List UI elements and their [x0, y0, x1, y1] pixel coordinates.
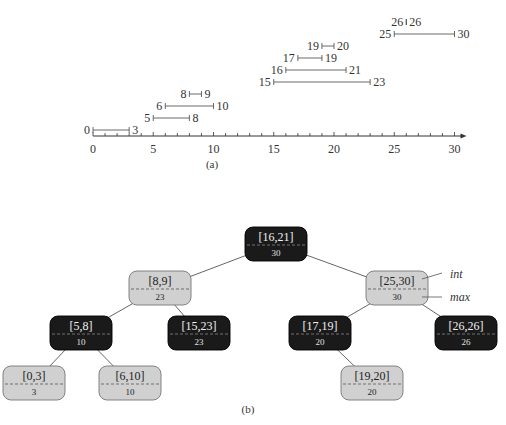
- node-legend: int max: [422, 267, 471, 304]
- tree-node-0-3: [0,3]3: [3, 366, 65, 400]
- node-max: 30: [393, 292, 403, 302]
- interval-high-label: 8: [192, 111, 198, 125]
- number-axis: 051015202530: [90, 132, 467, 156]
- tree-node-6-10: [6,10]10: [99, 366, 161, 400]
- tree-node-19-20: [19,20]20: [341, 366, 403, 400]
- interval-high-label: 23: [373, 75, 385, 89]
- legend-max-label: max: [450, 290, 471, 304]
- node-max: 30: [272, 248, 282, 258]
- interval-bar: 03: [84, 123, 138, 137]
- node-interval: [25,30]: [380, 274, 415, 288]
- interval-high-label: 19: [325, 51, 337, 65]
- interval-high-label: 30: [458, 27, 470, 41]
- tree-node-16-21: [16,21]30: [245, 227, 307, 261]
- tree-node-17-19: [17,19]20: [289, 316, 351, 350]
- axis-tick-label: 15: [268, 142, 280, 156]
- node-interval: [26,26]: [449, 319, 484, 333]
- interval-low-label: 6: [156, 99, 162, 113]
- axis-tick-label: 0: [90, 142, 96, 156]
- interval-bar: 58: [144, 111, 198, 125]
- interval-low-label: 0: [84, 123, 90, 137]
- interval-low-label: 19: [307, 39, 319, 53]
- axis-tick-label: 10: [208, 142, 220, 156]
- node-interval: [8,9]: [149, 274, 172, 288]
- axis-tick-label: 30: [449, 142, 461, 156]
- interval-tree: [16,21]30[8,9]23[25,30]30[5,8]10[15,23]2…: [3, 227, 497, 416]
- node-interval: [0,3]: [23, 369, 46, 383]
- interval-high-label: 10: [217, 99, 229, 113]
- node-interval: [15,23]: [182, 319, 217, 333]
- caption-b: (b): [242, 403, 255, 416]
- node-interval: [5,8]: [70, 319, 93, 333]
- interval-high-label: 3: [132, 123, 138, 137]
- node-max: 20: [316, 337, 326, 347]
- interval-bar: 2530: [379, 27, 469, 41]
- interval-high-label: 20: [337, 39, 349, 53]
- interval-bar: 89: [180, 87, 210, 101]
- axis-tick-label: 5: [150, 142, 156, 156]
- axis-tick-label: 25: [388, 142, 400, 156]
- node-max: 26: [462, 337, 472, 347]
- interval-bar: 1621: [271, 63, 361, 77]
- tree-node-26-26: [26,26]26: [435, 316, 497, 350]
- node-max: 10: [126, 387, 136, 397]
- node-interval: [19,20]: [355, 369, 390, 383]
- node-interval: [17,19]: [303, 319, 338, 333]
- interval-bar: 2626: [391, 15, 421, 29]
- tree-edges: [34, 244, 466, 383]
- tree-nodes: [16,21]30[8,9]23[25,30]30[5,8]10[15,23]2…: [3, 227, 497, 400]
- node-max: 10: [77, 337, 87, 347]
- axis-tick-label: 20: [328, 142, 340, 156]
- interval-bar: 1523: [259, 75, 385, 89]
- node-max: 20: [368, 387, 378, 397]
- interval-high-label: 26: [409, 15, 421, 29]
- interval-low-label: 26: [391, 15, 403, 29]
- tree-node-5-8: [5,8]10: [50, 316, 112, 350]
- tree-node-8-9: [8,9]23: [129, 271, 191, 305]
- interval-low-label: 8: [180, 87, 186, 101]
- interval-low-label: 17: [283, 51, 295, 65]
- caption-a: (a): [206, 158, 219, 171]
- tree-node-15-23: [15,23]23: [168, 316, 230, 350]
- interval-low-label: 15: [259, 75, 271, 89]
- tree-node-25-30: [25,30]30: [366, 271, 428, 305]
- interval-low-label: 16: [271, 63, 283, 77]
- node-max: 3: [32, 387, 37, 397]
- node-max: 23: [195, 337, 205, 347]
- node-max: 23: [156, 292, 166, 302]
- legend-int-label: int: [450, 267, 463, 281]
- interval-chart: 051015202530 035861089152316211719192025…: [84, 15, 470, 171]
- interval-list: 035861089152316211719192025302626: [84, 15, 470, 137]
- interval-high-label: 9: [204, 87, 210, 101]
- interval-bar: 1719: [283, 51, 337, 65]
- axis-arrow-icon: [461, 134, 467, 139]
- interval-high-label: 21: [349, 63, 361, 77]
- interval-low-label: 5: [144, 111, 150, 125]
- node-interval: [6,10]: [116, 369, 145, 383]
- interval-low-label: 25: [379, 27, 391, 41]
- node-interval: [16,21]: [259, 230, 294, 244]
